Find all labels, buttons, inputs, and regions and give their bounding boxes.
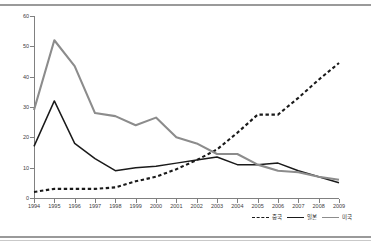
legend-item-usa[interactable]: 미국 — [322, 213, 352, 221]
dashed-line-swatch-icon — [252, 217, 269, 218]
legend-label-japan: 일본 — [307, 213, 317, 221]
series-layer — [0, 0, 371, 246]
bottom-border-secondary — [0, 240, 371, 241]
legend-item-china[interactable]: 중국 — [252, 213, 282, 221]
chart-legend: 중국 일본 미국 — [252, 213, 352, 221]
solid-gray-line-swatch-icon — [322, 217, 339, 218]
legend-item-japan[interactable]: 일본 — [287, 213, 317, 221]
series-line-미국 — [34, 40, 339, 180]
chart-plot-area: 0102030405060 19941995199619971998199920… — [0, 0, 371, 246]
legend-label-usa: 미국 — [342, 213, 352, 221]
bottom-border — [0, 236, 371, 238]
chart-page: 0102030405060 19941995199619971998199920… — [0, 0, 371, 246]
series-line-일본 — [34, 101, 339, 183]
solid-black-line-swatch-icon — [287, 217, 304, 218]
legend-label-china: 중국 — [272, 213, 282, 221]
